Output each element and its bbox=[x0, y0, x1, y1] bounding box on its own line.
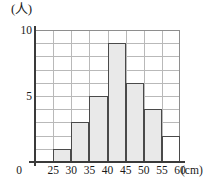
x-axis-tick-45: 45 bbox=[116, 163, 136, 177]
y-axis-tick-5: 5 bbox=[10, 90, 32, 102]
x-axis-tick-25: 25 bbox=[43, 163, 63, 177]
y-axis-tick-10: 10 bbox=[10, 24, 32, 36]
histogram-bar bbox=[162, 136, 180, 162]
histogram-chart: (人) 10 5 02530354045505560(cm) bbox=[0, 0, 215, 192]
y-axis-unit-label: (人) bbox=[11, 2, 32, 15]
x-axis-tick-40: 40 bbox=[98, 163, 118, 177]
x-axis-tick-50: 50 bbox=[134, 163, 154, 177]
histogram-bar bbox=[71, 122, 89, 162]
x-axis-tick-0: 0 bbox=[9, 163, 29, 177]
x-axis-tick-55: 55 bbox=[152, 163, 172, 177]
x-axis-tick-30: 30 bbox=[61, 163, 81, 177]
histogram-bar bbox=[89, 96, 107, 162]
histogram-bar bbox=[126, 83, 144, 162]
histogram-bar bbox=[108, 43, 126, 162]
x-axis-ticks: 02530354045505560(cm) bbox=[0, 163, 215, 183]
plot-area bbox=[35, 30, 180, 162]
x-axis-tick-35: 35 bbox=[79, 163, 99, 177]
bars-group bbox=[35, 30, 180, 162]
y-axis-line bbox=[34, 26, 36, 166]
x-axis-unit-label: (cm) bbox=[181, 163, 203, 177]
histogram-bar bbox=[144, 109, 162, 162]
